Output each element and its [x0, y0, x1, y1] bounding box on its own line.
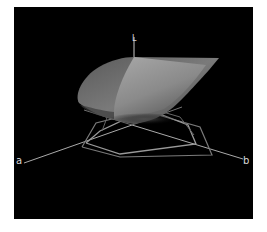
b-axis-label: b: [243, 156, 249, 166]
a-axis-label: a: [16, 156, 22, 166]
a-axis-line: [24, 125, 132, 163]
l-axis-label: L: [132, 34, 136, 44]
b-axis-line: [132, 125, 243, 159]
gamut-surface: [78, 57, 219, 125]
gamut-3d-viewport[interactable]: a b L: [14, 7, 253, 219]
under-glow: [109, 113, 179, 125]
